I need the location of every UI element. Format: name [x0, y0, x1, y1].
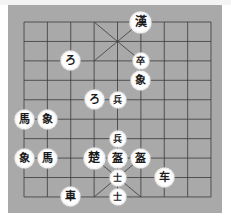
piece-soldier[interactable]: 卒	[134, 54, 148, 68]
piece-cannon[interactable]: ろ	[86, 91, 103, 108]
piece-general-han[interactable]: 漢	[131, 13, 150, 32]
piece-horse[interactable]: 馬	[16, 111, 33, 128]
piece-horse[interactable]: 馬	[39, 150, 56, 167]
piece-cannon[interactable]: 盔	[109, 150, 126, 167]
piece-elephant[interactable]: 象	[16, 150, 33, 167]
piece-advisor[interactable]: 士	[111, 190, 125, 204]
piece-general-chu[interactable]: 楚	[85, 149, 104, 168]
piece-soldier[interactable]: 兵	[111, 132, 125, 146]
piece-advisor[interactable]: 士	[111, 171, 125, 185]
piece-chariot[interactable]: 车	[156, 169, 173, 186]
piece-elephant[interactable]: 象	[39, 111, 56, 128]
piece-soldier[interactable]: 兵	[111, 93, 125, 107]
piece-cannon[interactable]: 盔	[132, 150, 149, 167]
